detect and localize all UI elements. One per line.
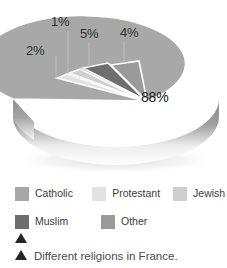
- figure-caption-block: Different religions in France.: [0, 232, 227, 268]
- legend-swatch-other: [101, 215, 115, 229]
- legend-row: Muslim Other: [0, 211, 227, 232]
- legend-label-jewish: Jewish: [193, 188, 225, 199]
- chart-plot-area: 2% 1% 5% 4% 88%: [0, 0, 227, 178]
- legend-item-jewish: Jewish: [173, 183, 227, 204]
- chart-legend: Catholic Protestant Jewish Muslim Other: [0, 183, 227, 232]
- legend-item-muslim: Muslim: [15, 211, 101, 232]
- caption-marker-group: [15, 232, 29, 266]
- legend-swatch-muslim: [15, 215, 29, 229]
- legend-item-catholic: Catholic: [15, 183, 92, 204]
- legend-label-other: Other: [121, 216, 147, 227]
- legend-item-protestant: Protestant: [92, 183, 173, 204]
- triangle-up-icon: [15, 233, 27, 243]
- legend-label-muslim: Muslim: [35, 216, 68, 227]
- pie-label-jewish: 1%: [51, 15, 69, 28]
- pie-chart-graphic: [0, 0, 227, 178]
- pie-chart-figure: 2% 1% 5% 4% 88% Catholic Protestant Jewi…: [0, 0, 227, 268]
- legend-swatch-jewish: [173, 187, 187, 201]
- legend-label-protestant: Protestant: [112, 188, 160, 199]
- legend-item-other: Other: [101, 211, 191, 232]
- pie-label-other: 4%: [120, 26, 138, 39]
- figure-caption: Different religions in France.: [34, 251, 178, 263]
- triangle-up-icon: [15, 250, 27, 260]
- legend-swatch-catholic: [15, 187, 29, 201]
- legend-label-catholic: Catholic: [35, 188, 73, 199]
- pie-label-protestant: 2%: [26, 44, 44, 57]
- legend-swatch-protestant: [92, 187, 106, 201]
- pie-label-catholic: 88%: [141, 90, 168, 104]
- pie-label-muslim: 5%: [80, 27, 98, 40]
- legend-row: Catholic Protestant Jewish: [0, 183, 227, 204]
